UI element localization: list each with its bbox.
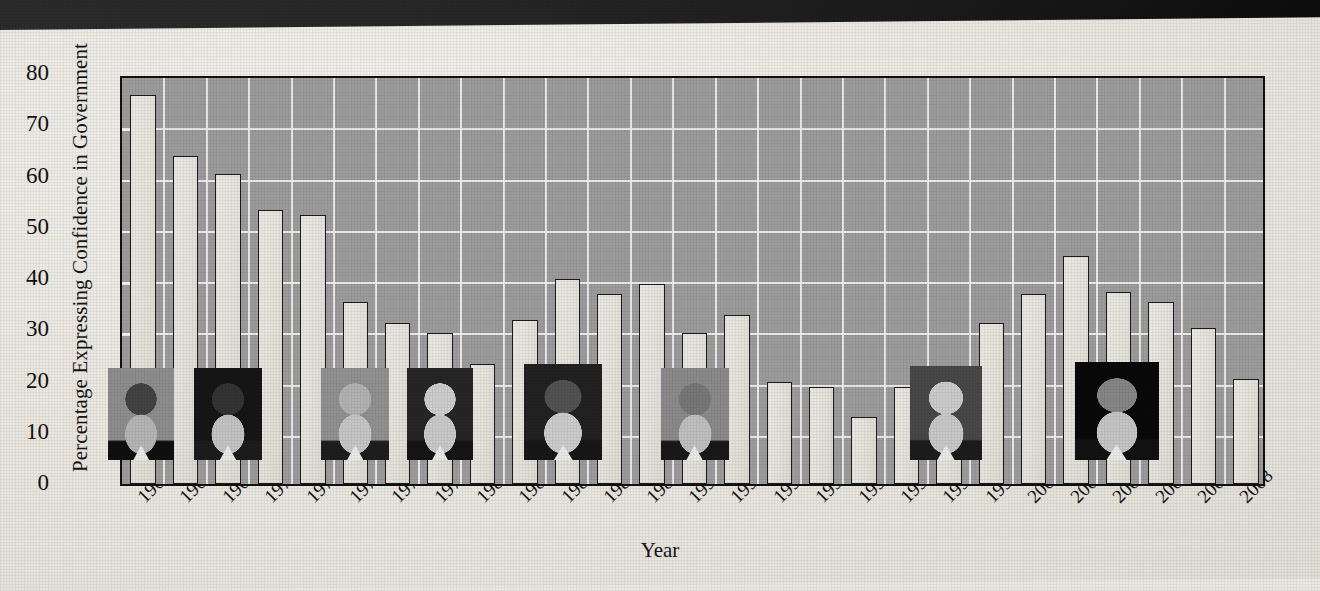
bar-1992 xyxy=(767,382,792,485)
gridline-horizontal xyxy=(122,180,1263,182)
bar-2008 xyxy=(1233,379,1258,484)
photo-george-h-w-bush xyxy=(661,368,729,460)
photo-ronald-reagan xyxy=(524,364,602,460)
photo-george-w-bush xyxy=(1075,362,1159,460)
gridline-vertical xyxy=(1054,78,1056,484)
bar-2006 xyxy=(1191,328,1216,484)
gridline-horizontal xyxy=(122,282,1263,284)
y-axis-title: Percentage Expressing Confidence in Gove… xyxy=(68,38,93,478)
gridline-vertical xyxy=(800,78,802,484)
gridline-vertical xyxy=(1012,78,1014,484)
y-tick-label: 70 xyxy=(0,111,49,137)
gridline-vertical xyxy=(884,78,886,484)
bar-1993 xyxy=(809,387,834,484)
gridline-vertical xyxy=(503,78,505,484)
y-tick-label: 80 xyxy=(0,60,49,86)
x-axis-title: Year xyxy=(560,538,760,563)
bar-1994 xyxy=(851,417,876,484)
y-tick-label: 40 xyxy=(0,265,49,291)
bar-1980 xyxy=(470,364,495,484)
photo-bill-clinton xyxy=(910,366,982,460)
gridline-vertical xyxy=(291,78,293,484)
gridline-vertical xyxy=(757,78,759,484)
gridline-vertical xyxy=(630,78,632,484)
gridline-vertical xyxy=(1224,78,1226,484)
gridline-horizontal xyxy=(122,128,1263,130)
photo-lyndon-johnson xyxy=(108,368,174,460)
bar-chart-figure: Percentage Expressing Confidence in Gove… xyxy=(0,0,1320,591)
photo-jimmy-carter xyxy=(407,368,473,460)
bar-1998 xyxy=(979,323,1004,484)
gridline-vertical xyxy=(1181,78,1183,484)
y-tick-label: 20 xyxy=(0,368,49,394)
gridline-vertical xyxy=(842,78,844,484)
y-tick-label: 30 xyxy=(0,316,49,342)
y-tick-label: 0 xyxy=(0,470,49,496)
gridline-horizontal xyxy=(122,231,1263,233)
plot-area xyxy=(120,76,1265,486)
photo-richard-nixon xyxy=(194,368,262,460)
bar-2000 xyxy=(1021,294,1046,484)
y-tick-label: 60 xyxy=(0,163,49,189)
y-tick-label: 10 xyxy=(0,419,49,445)
photo-gerald-ford xyxy=(321,368,389,460)
y-tick-label: 50 xyxy=(0,214,49,240)
